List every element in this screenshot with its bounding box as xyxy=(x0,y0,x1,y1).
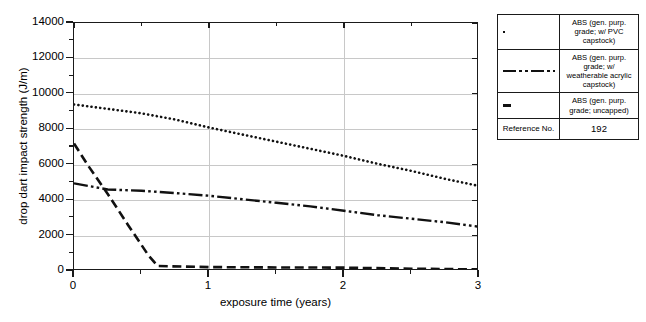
x-tick-minor xyxy=(275,270,276,274)
x-tick-minor xyxy=(140,270,141,274)
x-axis-label: exposure time (years) xyxy=(73,296,478,308)
legend-table: ABS (gen. purp. grade; w/ PVC capstock) … xyxy=(497,14,639,140)
reference-row: Reference No. 192 xyxy=(498,119,638,139)
x-tick-label: 3 xyxy=(463,279,493,291)
x-tick-label: 2 xyxy=(328,279,358,291)
y-tick-inner-right xyxy=(472,200,477,201)
x-tick-inner-top-minor xyxy=(141,23,142,26)
y-tick-inner-right xyxy=(472,235,477,236)
y-tick-major xyxy=(66,199,73,200)
x-tick-major xyxy=(207,270,208,277)
y-tick-label: 8000 xyxy=(4,122,64,133)
y-tick-inner-right xyxy=(472,164,477,165)
y-tick-major xyxy=(66,163,73,164)
y-tick-label: 14000 xyxy=(4,16,64,27)
x-tick-inner-top xyxy=(74,23,75,28)
y-tick-inner-right xyxy=(472,58,477,59)
y-tick-inner-right xyxy=(472,93,477,94)
x-tick-inner-top xyxy=(208,23,209,28)
series-line xyxy=(74,143,477,269)
x-tick-inner-top-minor xyxy=(276,23,277,26)
legend-text: ABS (gen. purp. grade; uncapped) xyxy=(560,93,638,117)
legend-swatch-dashdotdot xyxy=(498,50,560,93)
y-tick-major xyxy=(66,21,73,22)
y-tick-label: 6000 xyxy=(4,158,64,169)
plot-inner xyxy=(74,23,477,269)
x-tick-major xyxy=(72,270,73,277)
y-tick-major xyxy=(66,128,73,129)
y-axis-label: drop dart impact strength (J/m) xyxy=(17,31,29,261)
x-tick-label: 1 xyxy=(193,279,223,291)
series-layer xyxy=(74,23,477,269)
legend-row: ABS (gen. purp. grade; w/ PVC capstock) xyxy=(498,15,638,50)
y-tick-label: 10000 xyxy=(4,87,64,98)
y-tick-label: 2000 xyxy=(4,229,64,240)
y-tick-label: 4000 xyxy=(4,193,64,204)
y-tick-major xyxy=(66,234,73,235)
x-tick-label: 0 xyxy=(58,279,88,291)
plot-area xyxy=(73,22,478,270)
dotted-line-icon xyxy=(503,31,555,33)
x-tick-inner-top xyxy=(343,23,344,28)
y-tick-label: 0 xyxy=(4,264,64,275)
y-tick-major xyxy=(66,57,73,58)
legend-text: ABS (gen. purp. grade; w/ PVC capstock) xyxy=(560,15,638,49)
reference-value: 192 xyxy=(560,119,638,139)
series-line xyxy=(74,183,477,226)
x-tick-inner-top-minor xyxy=(411,23,412,26)
dashed-line-icon xyxy=(503,104,555,107)
chart-figure: drop dart impact strength (J/m) exposure… xyxy=(0,0,486,322)
legend-swatch-dashed xyxy=(498,93,560,117)
dash-dot-dot-line-icon xyxy=(503,70,555,73)
reference-label: Reference No. xyxy=(498,119,560,139)
legend-row: ABS (gen. purp. grade; w/ weatherable ac… xyxy=(498,50,638,94)
y-tick-label: 12000 xyxy=(4,51,64,62)
x-tick-major xyxy=(477,270,478,277)
x-tick-major xyxy=(342,270,343,277)
y-tick-major xyxy=(66,92,73,93)
chart-page: drop dart impact strength (J/m) exposure… xyxy=(0,0,646,322)
legend-swatch-dotted xyxy=(498,15,560,49)
x-tick-minor xyxy=(410,270,411,274)
legend-text: ABS (gen. purp. grade; w/ weatherable ac… xyxy=(560,50,638,93)
legend-row: ABS (gen. purp. grade; uncapped) xyxy=(498,93,638,118)
series-line xyxy=(74,104,477,185)
y-tick-inner-right xyxy=(472,129,477,130)
y-tick-inner-right xyxy=(472,23,477,24)
